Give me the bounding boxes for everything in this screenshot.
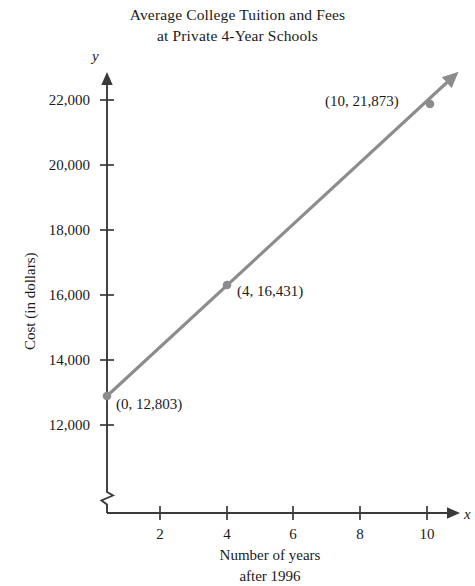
y-tick-label-22000: 22,000: [20, 93, 90, 108]
y-axis-symbol: y: [92, 48, 99, 65]
x-axis-title-line-2: after 1996: [140, 566, 400, 586]
data-point-label-0: (0, 12,803): [116, 397, 182, 412]
x-tick-label-8: 8: [356, 527, 364, 542]
y-tick-label-18000: 18,000: [20, 223, 90, 238]
y-axis-break-icon: [102, 488, 114, 513]
data-point-label-1: (4, 16,431): [237, 284, 303, 299]
data-point-label-2: (10, 21,873): [325, 94, 399, 109]
x-tick-label-10: 10: [420, 527, 435, 542]
x-axis-title-line-1: Number of years: [140, 545, 400, 566]
y-tick-label-14000: 14,000: [20, 353, 90, 368]
x-tick-label-6: 6: [289, 527, 297, 542]
x-tick-label-2: 2: [156, 527, 164, 542]
data-point-1: [223, 281, 232, 290]
data-point-0: [103, 392, 112, 401]
y-tick-label-12000: 12,000: [20, 418, 90, 433]
data-line-series-1: [107, 75, 455, 396]
x-tick-label-4: 4: [223, 527, 231, 542]
tuition-line-chart-figure: Average College Tuition and Fees at Priv…: [0, 0, 475, 586]
data-point-2: [426, 100, 435, 109]
x-axis-title: Number of years after 1996: [140, 545, 400, 586]
y-tick-label-20000: 20,000: [20, 158, 90, 173]
x-axis-symbol: x: [464, 506, 471, 523]
y-axis-title: Cost (in dollars): [22, 253, 39, 351]
